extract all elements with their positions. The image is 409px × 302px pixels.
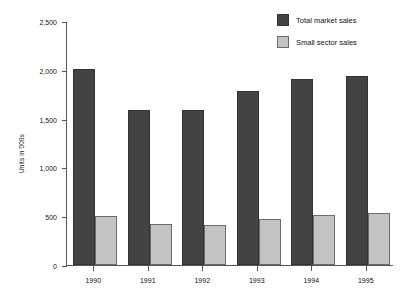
y-axis-tick: 2,000 — [62, 71, 67, 72]
legend-label-total-market-sales: Total market sales — [296, 16, 356, 25]
x-axis-tick — [202, 266, 203, 271]
x-axis-tick-label: 1993 — [249, 277, 265, 284]
x-axis-tick-label: 1991 — [140, 277, 156, 284]
y-axis-tick-label: 1,000 — [39, 165, 57, 172]
bar-1992-small-sector-sales — [204, 225, 226, 266]
legend-item-small-sector-sales: Small sector sales — [277, 36, 357, 48]
x-axis-tick — [93, 266, 94, 271]
y-axis-tick-label: 500 — [45, 214, 57, 221]
y-axis-tick: 500 — [62, 217, 67, 218]
y-axis-tick-label: 0 — [53, 263, 57, 270]
legend-swatch-icon-small-sector-sales — [277, 36, 289, 48]
y-axis-tick: 1,000 — [62, 168, 67, 169]
y-axis-tick: 0 — [62, 266, 67, 267]
y-axis-line — [66, 22, 67, 267]
y-axis-tick-label: 1,500 — [39, 116, 57, 123]
y-axis-tick: 1,500 — [62, 120, 67, 121]
plot-area: 05001,0001,5002,0002,500 199019911992199… — [66, 22, 393, 266]
bar-1994-small-sector-sales — [313, 215, 335, 265]
bar-1993-small-sector-sales — [259, 219, 281, 265]
legend-item-total-market-sales: Total market sales — [277, 14, 357, 26]
x-axis-tick — [311, 266, 312, 271]
bar-1990-total-market-sales — [73, 69, 95, 265]
y-axis-tick: 2,500 — [62, 22, 67, 23]
x-axis-tick — [148, 266, 149, 271]
bar-1991-small-sector-sales — [150, 224, 172, 265]
bar-chart: Units in 000s 05001,0001,5002,0002,500 1… — [0, 0, 409, 302]
x-axis-tick-label: 1992 — [194, 277, 210, 284]
x-axis-tick-label: 1995 — [358, 277, 374, 284]
y-axis-title: Units in 000s — [18, 114, 25, 194]
chart-legend: Total market sales Small sector sales — [277, 14, 357, 58]
legend-label-small-sector-sales: Small sector sales — [296, 38, 357, 47]
x-axis-tick — [366, 266, 367, 271]
x-axis-tick-label: 1990 — [85, 277, 101, 284]
y-axis-tick-label: 2,000 — [39, 67, 57, 74]
bar-1994-total-market-sales — [291, 79, 313, 265]
bar-1992-total-market-sales — [182, 110, 204, 265]
bar-1995-small-sector-sales — [368, 213, 390, 265]
y-axis-tick-label: 2,500 — [39, 19, 57, 26]
x-axis-line — [66, 265, 393, 266]
x-axis-tick — [257, 266, 258, 271]
bar-1991-total-market-sales — [128, 110, 150, 265]
x-axis-tick-label: 1994 — [303, 277, 319, 284]
bar-1990-small-sector-sales — [95, 216, 117, 265]
bar-1993-total-market-sales — [237, 91, 259, 265]
bar-1995-total-market-sales — [346, 76, 368, 265]
legend-swatch-icon-total-market-sales — [277, 14, 289, 26]
